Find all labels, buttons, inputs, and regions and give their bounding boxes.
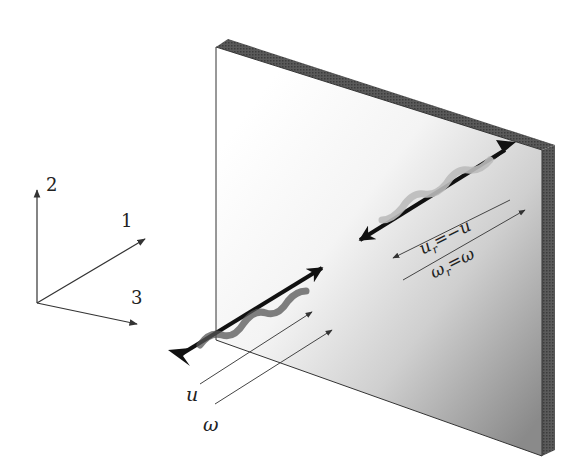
diagram-canvas [0,0,586,469]
axis-2-label: 2 [46,174,57,195]
plate-front-face [216,47,542,456]
axis-3-label: 3 [131,287,142,308]
plate [216,39,555,456]
incident-u-label: u [186,383,198,405]
incident-particle-tail [168,348,190,366]
incident-omega-label: ω [203,413,219,435]
axis-1 [37,239,145,303]
axis-1-label: 1 [121,210,132,231]
plate-right-edge [542,145,555,456]
axis-3 [37,303,137,324]
